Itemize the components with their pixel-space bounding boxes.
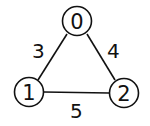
edge-weight-0-1: 3: [32, 39, 45, 63]
edge-weight-0-2: 4: [107, 39, 120, 63]
node-1: 1: [15, 78, 44, 107]
weighted-graph-diagram: 3 4 5 0 1 2: [0, 0, 150, 126]
node-label-2: 2: [117, 82, 130, 106]
node-label-0: 0: [70, 10, 83, 34]
edges: [38, 34, 115, 93]
node-0: 0: [63, 7, 92, 36]
node-2: 2: [110, 79, 139, 108]
edge-1-2: [44, 92, 109, 93]
edge-weight-1-2: 5: [70, 99, 83, 123]
node-label-1: 1: [22, 81, 35, 105]
